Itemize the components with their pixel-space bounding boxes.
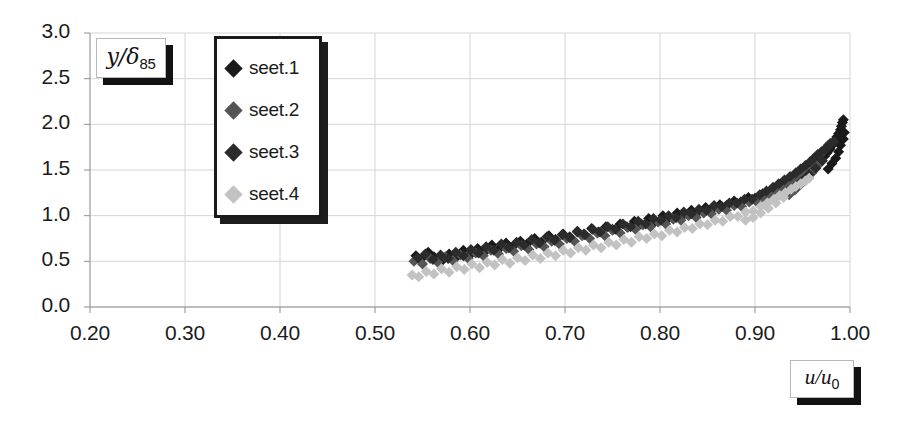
- y-axis-title-text: y/δ85: [106, 44, 155, 72]
- data-points: [407, 114, 850, 282]
- x-tick-label: 1.00: [810, 321, 890, 345]
- legend-item-label: seet.1: [249, 57, 299, 79]
- legend-item-seet.2[interactable]: seet.2: [227, 89, 319, 131]
- legend-diamond-icon: [224, 59, 242, 77]
- x-axis-title: u/u0: [790, 360, 854, 398]
- y-tick-label: 1.5: [12, 156, 70, 180]
- y-tick-label: 0.0: [12, 293, 70, 317]
- legend-diamond-icon: [224, 143, 242, 161]
- x-tick-label: 0.60: [430, 321, 510, 345]
- y-axis-title-main: y/δ: [106, 44, 139, 69]
- x-axis-title-sub: 0: [832, 377, 840, 393]
- x-axis-title-text: u/u0: [805, 365, 839, 392]
- y-tick-label: 3.0: [12, 19, 70, 43]
- legend-diamond-icon: [224, 185, 242, 203]
- y-tick-label: 0.5: [12, 247, 70, 271]
- y-axis-title: y/δ85: [96, 38, 166, 78]
- y-tick-label: 2.5: [12, 65, 70, 89]
- legend-item-seet.4[interactable]: seet.4: [227, 173, 319, 215]
- legend-item-label: seet.2: [249, 99, 299, 121]
- legend: seet.1seet.2seet.3seet.4: [214, 36, 322, 218]
- x-tick-label: 0.80: [620, 321, 700, 345]
- legend-item-label: seet.4: [249, 183, 299, 205]
- x-tick-label: 0.50: [335, 321, 415, 345]
- legend-diamond-icon: [224, 101, 242, 119]
- legend-item-seet.1[interactable]: seet.1: [227, 47, 319, 89]
- y-tick-label: 2.0: [12, 110, 70, 134]
- x-axis-title-main: u/u: [805, 365, 832, 389]
- scatter-chart: 0.00.51.01.52.02.53.0 0.200.300.400.500.…: [0, 0, 904, 423]
- y-tick-label: 1.0: [12, 202, 70, 226]
- x-tick-label: 0.30: [145, 321, 225, 345]
- x-tick-label: 0.90: [715, 321, 795, 345]
- legend-item-seet.3[interactable]: seet.3: [227, 131, 319, 173]
- y-axis-title-sub: 85: [140, 55, 156, 72]
- x-tick-label: 0.40: [240, 321, 320, 345]
- x-tick-label: 0.20: [50, 321, 130, 345]
- legend-item-label: seet.3: [249, 141, 299, 163]
- x-tick-label: 0.70: [525, 321, 605, 345]
